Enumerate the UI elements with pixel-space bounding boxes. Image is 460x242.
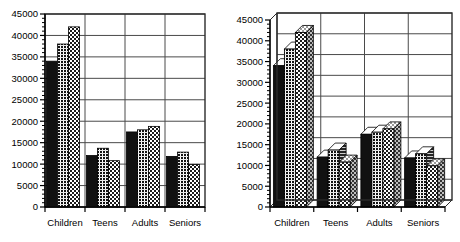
x-category-label: Seniors [407,217,439,228]
x-category-label: Children [47,217,82,228]
bar [58,44,69,207]
y-tick-label: 35000 [237,56,263,67]
charts-canvas: 0500010000150002000025000300003500040000… [0,0,460,242]
x-category-label: Seniors [169,217,201,228]
bar [127,132,138,207]
bar-side-face [350,155,357,207]
y-tick-label: 40000 [237,35,263,46]
bar [189,165,200,207]
y-tick-label: 30000 [12,73,38,84]
y-tick-label: 15000 [12,137,38,148]
bar [47,61,58,207]
y-tick-label: 45000 [12,8,38,19]
x-category-label: Adults [366,217,393,228]
y-axis-ticks: 0500010000150002000025000300003500040000… [12,8,45,212]
y-tick-label: 0 [258,201,263,212]
bar [87,156,98,207]
y-tick-label: 25000 [237,98,263,109]
bar-3d [295,25,313,207]
bar-3d [339,155,357,207]
y-tick-label: 0 [33,201,38,212]
bar-side-face [394,122,401,207]
chart-3d: 0500010000150002000025000300003500040000… [237,13,452,228]
y-tick-label: 10000 [237,160,263,171]
x-category-label: Teens [323,217,349,228]
x-axis-ticks: ChildrenTeensAdultsSeniors [270,207,445,228]
y-tick-label: 5000 [17,180,38,191]
y-tick-label: 25000 [12,94,38,105]
bar [69,27,80,207]
bar [98,148,109,207]
bar-front-face [328,150,339,207]
dual-bar-chart-figure: 0500010000150002000025000300003500040000… [0,0,460,242]
bar-front-face [361,134,372,207]
y-tick-label: 45000 [237,14,263,25]
bar [178,152,189,207]
y-tick-label: 30000 [237,77,263,88]
bar-side-face [306,25,313,207]
bar-front-face [284,49,295,207]
bar-front-face [416,154,427,207]
y-tick-label: 35000 [12,51,38,62]
bar [138,130,149,207]
y-tick-label: 20000 [237,118,263,129]
bar-front-face [427,166,438,207]
y-tick-label: 40000 [12,30,38,41]
y-axis-ticks: 0500010000150002000025000300003500040000… [237,14,270,212]
bar-front-face [273,66,284,207]
bar-front-face [383,129,394,207]
bar-front-face [372,132,383,207]
bar-front-face [295,32,306,207]
x-category-label: Adults [132,217,159,228]
bar [167,156,178,207]
y-tick-label: 20000 [12,116,38,127]
bar [109,161,120,207]
bar [149,126,160,207]
x-category-label: Children [274,217,309,228]
bar-3d [383,122,401,207]
y-tick-label: 5000 [242,181,263,192]
x-axis-ticks: ChildrenTeensAdultsSeniors [45,207,205,228]
x-category-label: Teens [92,217,118,228]
chart-2d: 0500010000150002000025000300003500040000… [12,8,205,228]
y-tick-label: 15000 [237,139,263,150]
y-tick-label: 10000 [12,159,38,170]
